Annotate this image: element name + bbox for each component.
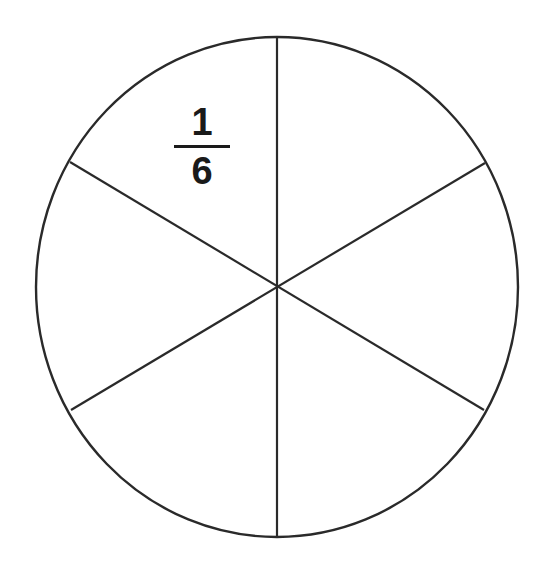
fraction-bar xyxy=(174,145,230,148)
fraction-label: 1 6 xyxy=(170,102,234,192)
fraction-denominator: 6 xyxy=(170,150,234,192)
fraction-numerator: 1 xyxy=(170,102,234,142)
fraction-circle-diagram xyxy=(0,0,543,573)
